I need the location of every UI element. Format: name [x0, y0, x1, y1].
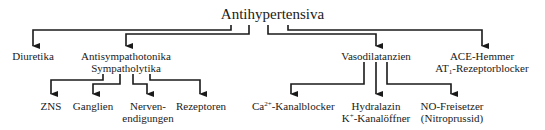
node-antisympathotonika-line1: Antisympathotonika [76, 50, 176, 62]
node-ganglien: Ganglien [70, 100, 116, 112]
node-rezeptoren-label: Rezeptoren [176, 100, 226, 112]
node-antisympathotonika-line2: Sympatholytika [76, 62, 176, 74]
node-hydralazin-line2: K+-Kanalöffner [340, 112, 412, 124]
root-label: Antihypertensiva [221, 6, 324, 22]
node-zns-label: ZNS [41, 100, 62, 112]
node-rezeptoren: Rezeptoren [174, 100, 228, 112]
node-diuretika-label: Diuretika [12, 50, 54, 62]
node-vasodilatanzien-label: Vasodilatanzien [341, 50, 411, 62]
node-nervenendigungen: Nerven- endigungen [120, 100, 176, 124]
node-antisympathotonika: Antisympathotonika Sympatholytika [76, 50, 176, 74]
k-suffix: -Kanalöffner [354, 112, 411, 124]
node-ace-line1: ACE-Hemmer [430, 50, 534, 62]
node-no-line1: NO-Freisetzer [418, 100, 486, 112]
node-nerven-line2: endigungen [120, 112, 176, 124]
node-no-line2: (Nitroprussid) [418, 112, 486, 124]
node-no-freisetzer: NO-Freisetzer (Nitroprussid) [418, 100, 486, 124]
ca-superscript: 2+ [264, 100, 271, 108]
root-node-antihypertensiva: Antihypertensiva [200, 6, 345, 22]
node-vasodilatanzien: Vasodilatanzien [336, 50, 416, 62]
node-ca-kanalblocker: Ca2+-Kanalblocker [252, 100, 332, 112]
node-ace-line2: AT1-Rezeptorblocker [430, 62, 534, 74]
node-zns: ZNS [36, 100, 66, 112]
at-prefix: AT [435, 62, 448, 74]
at-suffix: -Rezeptorblocker [452, 62, 528, 74]
node-nerven-line1: Nerven- [120, 100, 176, 112]
node-ace-hemmer: ACE-Hemmer AT1-Rezeptorblocker [430, 50, 534, 74]
ca-suffix: -Kanalblocker [272, 100, 335, 112]
k-prefix: K [342, 112, 350, 124]
node-ganglien-label: Ganglien [73, 100, 113, 112]
node-hydralazin-line1: Hydralazin [340, 100, 412, 112]
node-diuretika: Diuretika [3, 50, 63, 62]
node-hydralazin: Hydralazin K+-Kanalöffner [340, 100, 412, 124]
ca-prefix: Ca [252, 100, 264, 112]
